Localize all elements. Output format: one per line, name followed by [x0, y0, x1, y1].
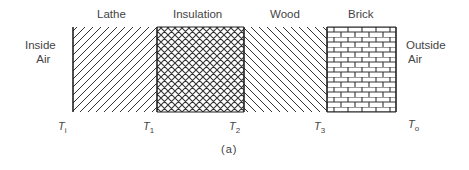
- temp-label-t2: T2: [229, 120, 240, 135]
- temp-label-to: To: [408, 118, 419, 133]
- layer-brick: [327, 27, 396, 112]
- layer-insulation: [157, 27, 244, 112]
- temp-label-t3: T3: [314, 120, 325, 135]
- layer-wood: [244, 27, 327, 112]
- layer-label-lathe: Lathe: [97, 8, 126, 20]
- figure-caption: (a): [221, 143, 237, 155]
- outside-air-line2: Air: [408, 52, 446, 66]
- temp-label-ti: Ti: [58, 120, 67, 135]
- layer-label-brick: Brick: [348, 8, 374, 20]
- layer-label-wood: Wood: [270, 8, 300, 20]
- temp-label-t1: T1: [143, 120, 154, 135]
- outside-air-label: Outside Air: [406, 38, 446, 66]
- layer-lathe: [73, 27, 157, 112]
- inside-air-line2: Air: [31, 52, 56, 66]
- inside-air-label: Inside Air: [25, 38, 56, 66]
- outside-air-line1: Outside: [406, 38, 446, 52]
- layer-label-insulation: Insulation: [173, 8, 222, 20]
- inside-air-line1: Inside: [25, 38, 56, 52]
